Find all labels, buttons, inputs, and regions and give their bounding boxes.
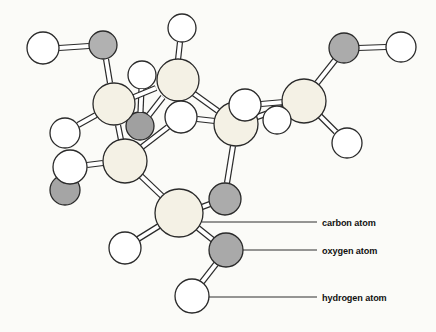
bond-O-5-H-11 [202, 264, 216, 282]
label-hydrogen-atom: hydrogen atom [322, 292, 387, 303]
atom-H-6-hydrogen [53, 150, 87, 184]
atom-H-2-hydrogen [168, 14, 196, 42]
atom-O-1-oxygen [89, 31, 117, 59]
bond-C-6-H-10 [138, 226, 159, 239]
bond-H-12-C-4 [197, 119, 215, 121]
atom-H-9-hydrogen [332, 128, 362, 158]
atom-H-4-hydrogen [128, 61, 156, 89]
atom-H-5-hydrogen [50, 118, 80, 148]
bond-C-2-O-3 [149, 97, 163, 115]
bond-C-3-C-6 [141, 176, 162, 196]
bond-O-2-H-3 [358, 47, 386, 48]
atom-H-8-hydrogen [263, 106, 291, 134]
atom-C-2-carbon [157, 59, 199, 101]
label-oxygen-atom: oxygen atom [322, 245, 377, 256]
bond-C-5-O-2 [317, 59, 336, 83]
bond-C-2-C-4 [193, 93, 218, 111]
ball-and-stick-model [0, 0, 436, 332]
bond-C-6-O-5 [198, 228, 213, 240]
atom-H-1-hydrogen [27, 32, 59, 64]
bond-H-1-O-1 [59, 46, 89, 48]
atom-H-12-hydrogen [165, 101, 197, 133]
bond-C-3-H-6 [87, 163, 103, 165]
atom-H-11-hydrogen [175, 279, 209, 313]
atom-O-5-oxygen [209, 233, 243, 267]
bond-C-5-H-9 [320, 116, 336, 132]
molecule-figure: carbon atom oxygen atom hydrogen atom [0, 0, 436, 332]
atom-H-7-hydrogen [229, 89, 261, 121]
atom-C-3-carbon [103, 139, 147, 183]
label-carbon-atom: carbon atom [322, 217, 376, 228]
atom-O-4-oxygen [209, 183, 241, 215]
atom-C-6-carbon [155, 189, 203, 237]
atom-O-2-oxygen [329, 33, 359, 63]
bond-C-2-H-2 [178, 42, 180, 60]
bond-H-7-C-5 [261, 102, 284, 104]
atom-H-10-hydrogen [109, 232, 141, 264]
atom-C-1-carbon [93, 83, 135, 125]
atom-H-3-hydrogen [386, 32, 416, 62]
